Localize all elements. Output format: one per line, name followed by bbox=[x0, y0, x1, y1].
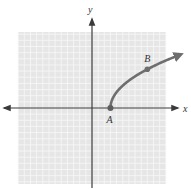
point-b bbox=[145, 66, 151, 72]
point-a bbox=[107, 105, 113, 111]
x-axis-label: x bbox=[182, 103, 188, 114]
graph: x y A B bbox=[0, 0, 191, 191]
y-axis-label: y bbox=[87, 4, 93, 15]
point-b-label: B bbox=[144, 53, 150, 64]
point-a-label: A bbox=[105, 114, 113, 125]
